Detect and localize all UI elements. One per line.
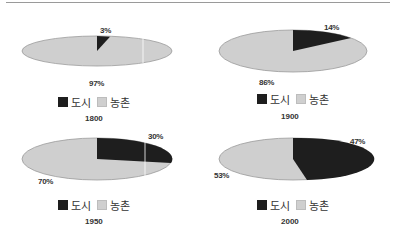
urban-percent-label: 30% (148, 132, 163, 141)
urban-swatch (257, 200, 267, 210)
rural-legend-label: 농촌 (309, 91, 329, 107)
urban-percent-label: 3% (100, 26, 111, 35)
pie-panel-1950: 30% 70% 도시 농촌 1950 (0, 120, 197, 240)
rural-swatch (97, 200, 107, 210)
rural-percent-label: 70% (38, 177, 53, 186)
pie-panel-1900: 14% 86% 도시 농촌 1900 (197, 0, 394, 120)
legend: 도시 농촌 (257, 197, 329, 213)
rural-swatch (296, 94, 306, 104)
legend: 도시 농촌 (58, 197, 130, 213)
urban-percent-label: 14% (324, 23, 339, 32)
rural-legend-label: 농촌 (309, 197, 329, 213)
urban-legend-label: 도시 (71, 94, 91, 110)
rural-swatch (97, 97, 107, 107)
rural-legend-label: 농촌 (110, 94, 130, 110)
urban-swatch (58, 200, 68, 210)
rural-swatch (296, 200, 306, 210)
urban-swatch (58, 97, 68, 107)
rural-legend-label: 농촌 (110, 197, 130, 213)
legend: 도시 농촌 (257, 91, 329, 107)
urban-percent-label: 47% (350, 137, 365, 146)
rural-percent-label: 86% (259, 78, 274, 87)
year-label: 2000 (281, 217, 299, 226)
year-label: 1950 (85, 217, 103, 226)
urban-swatch (257, 94, 267, 104)
rural-percent-label: 53% (214, 171, 229, 180)
legend: 도시 농촌 (58, 94, 130, 110)
pie-panel-1800: 3% 97% 도시 농촌 1800 (0, 0, 197, 120)
pie-panel-2000: 47% 53% 도시 농촌 2000 (197, 120, 394, 240)
urban-legend-label: 도시 (71, 197, 91, 213)
urban-legend-label: 도시 (270, 91, 290, 107)
urban-legend-label: 도시 (270, 197, 290, 213)
rural-percent-label: 97% (89, 79, 104, 88)
